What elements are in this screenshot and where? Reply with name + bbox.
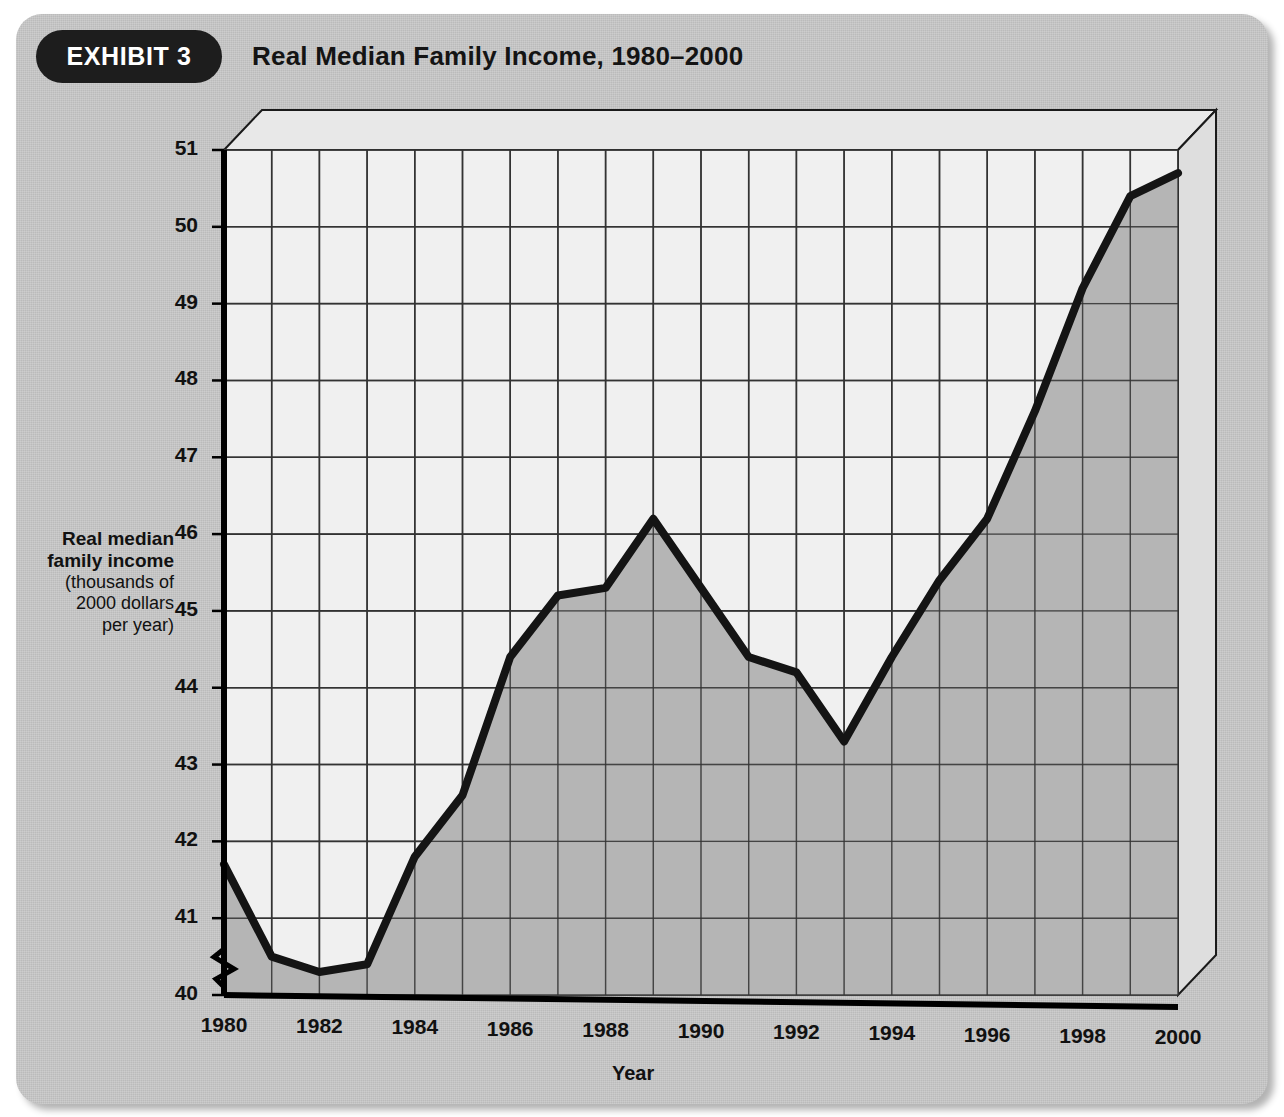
x-tick-label: 1986 [474,1017,546,1041]
x-tick-label: 1998 [1047,1024,1119,1048]
y-tick-label: 49 [158,290,198,314]
y-axis-title-line-4: 2000 dollars [34,593,174,614]
y-tick-label: 42 [158,827,198,851]
y-axis-title-line-1: Real median [34,528,174,550]
x-tick-label: 1988 [570,1018,642,1042]
plot-depth-right-face [1178,110,1216,995]
x-tick-label: 1992 [760,1020,832,1044]
y-tick-label: 44 [158,674,198,698]
plot-depth-top-face [224,110,1216,150]
x-axis-line [224,995,1178,1007]
y-tick-label: 43 [158,751,198,775]
x-tick-label: 1980 [188,1013,260,1037]
y-tick-label: 40 [158,981,198,1005]
y-axis-title-line-3: (thousands of [34,572,174,593]
y-tick-label: 50 [158,213,198,237]
y-tick-label: 41 [158,904,198,928]
chart-figure: 404142434445464748495051 198019821984198… [0,0,1284,1117]
x-tick-label: 1994 [856,1021,928,1045]
y-axis-title-line-5: per year) [34,615,174,636]
y-tick-label: 51 [158,136,198,160]
y-axis-title: Real median family income (thousands of … [34,528,174,636]
y-tick-label: 48 [158,366,198,390]
x-axis-title: Year [612,1062,654,1085]
y-tick-label: 47 [158,443,198,467]
x-tick-label: 1996 [951,1023,1023,1047]
chart-svg [0,0,1284,1117]
y-axis-title-line-2: family income [34,550,174,572]
x-tick-label: 2000 [1142,1025,1214,1049]
vertical-gridlines-overlay [224,150,1178,995]
x-tick-label: 1982 [283,1014,355,1038]
x-tick-label: 1990 [665,1019,737,1043]
x-tick-label: 1984 [379,1015,451,1039]
